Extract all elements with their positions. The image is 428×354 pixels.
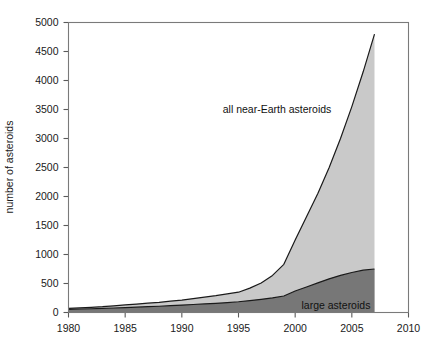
y-axis-tick-label: 3500 (35, 103, 59, 115)
x-axis-tick-label: 1995 (227, 322, 251, 334)
y-axis-tick-label: 0 (53, 306, 59, 318)
series-annotation-label: large asteroids (302, 299, 371, 311)
x-axis-tick-label: 1985 (113, 322, 137, 334)
x-axis-tick-label: 2005 (340, 322, 364, 334)
x-axis-tick-label: 1990 (170, 322, 194, 334)
y-axis-tick-label: 2000 (35, 190, 59, 202)
x-axis-tick-label: 2000 (283, 322, 307, 334)
y-axis-ticks (64, 23, 69, 313)
y-axis-tick-label: 1000 (35, 248, 59, 260)
series-area (69, 34, 375, 312)
y-axis-tick-label: 4000 (35, 74, 59, 86)
y-axis-tick-label: 5000 (35, 16, 59, 28)
y-axis-title: number of asteroids (3, 121, 15, 214)
asteroid-count-area-chart: 0500100015002000250030003500400045005000… (0, 0, 428, 354)
y-axis-tick-label: 3000 (35, 132, 59, 144)
y-axis-tick-label: 500 (41, 277, 59, 289)
y-axis-tick-labels: 0500100015002000250030003500400045005000 (35, 16, 59, 318)
chart-container: 0500100015002000250030003500400045005000… (0, 0, 428, 354)
x-axis-tick-label: 2010 (397, 322, 421, 334)
y-axis-tick-label: 2500 (35, 161, 59, 173)
x-axis-ticks (69, 313, 409, 318)
x-axis-tick-labels: 1980198519901995200020052010 (57, 322, 421, 334)
x-axis-tick-label: 1980 (57, 322, 81, 334)
series-annotation-label: all near-Earth asteroids (223, 103, 332, 115)
y-axis-tick-label: 4500 (35, 45, 59, 57)
y-axis-tick-label: 1500 (35, 219, 59, 231)
series-area-fills (69, 34, 375, 312)
